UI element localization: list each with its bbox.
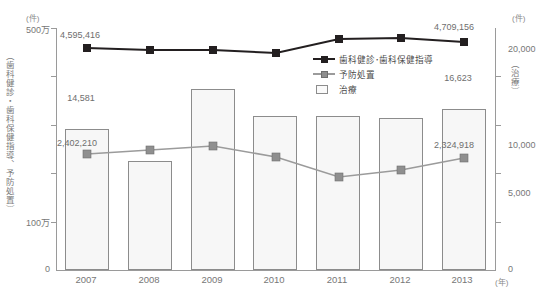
x-label-2012: 2012	[369, 274, 431, 285]
label-prevention-2007: 2,402,210	[57, 138, 97, 148]
marker-prevention-2010	[272, 153, 280, 161]
left-axis-label: （歯科健診・歯科保健指導、予防処置）	[4, 52, 13, 214]
marker-dental-checkup-2012	[397, 34, 405, 42]
right-tick-label-10000: 10,000	[508, 140, 536, 150]
legend-key-treatment-icon	[313, 84, 335, 94]
left-tick-label-1000000: 100万	[6, 216, 50, 229]
legend-label-treatment: 治療	[339, 83, 357, 95]
marker-prevention-2008	[146, 146, 154, 154]
line-prevention	[87, 146, 464, 177]
legend-key-dental-checkup-icon	[313, 54, 335, 64]
label-dental-checkup-2013: 4,709,156	[434, 22, 474, 32]
right-axis-label: （治療）	[509, 60, 518, 96]
chart-container: (件) （歯科健診・歯科保健指導、予防処置） (件) （治療） 500万 100…	[0, 0, 541, 294]
marker-prevention-2009	[209, 142, 217, 150]
legend-item-prevention: 予防処置	[313, 67, 433, 80]
legend-item-treatment: 治療	[313, 82, 433, 95]
x-label-2007: 2007	[55, 274, 117, 285]
legend-label-dental-checkup: 歯科健診･歯科保健指導	[339, 53, 433, 65]
left-axis-unit: (件)	[26, 12, 39, 23]
right-tick-label-5000: 5,000	[508, 188, 531, 198]
marker-dental-checkup-2013	[460, 38, 468, 46]
label-prevention-2013: 2,324,918	[434, 140, 474, 150]
x-label-2013: 2013	[431, 274, 493, 285]
marker-dental-checkup-2010	[272, 49, 280, 57]
right-tick-label-20000: 20,000	[508, 44, 536, 54]
left-tick-label-0: 0	[6, 264, 50, 274]
x-label-2008: 2008	[118, 274, 180, 285]
marker-prevention-2013	[460, 154, 468, 162]
marker-dental-checkup-2008	[146, 46, 154, 54]
marker-prevention-2011	[335, 173, 343, 181]
legend-key-prevention-icon	[313, 69, 335, 79]
right-axis-unit: (件)	[512, 12, 525, 23]
x-label-2011: 2011	[306, 274, 368, 285]
right-tick-label-0: 0	[508, 264, 513, 274]
marker-prevention-2012	[397, 166, 405, 174]
x-label-2010: 2010	[243, 274, 305, 285]
label-treatment-2007: 14,581	[55, 93, 107, 103]
label-treatment-2013: 16,623	[432, 73, 484, 83]
marker-dental-checkup-2007	[83, 44, 91, 52]
marker-dental-checkup-2009	[209, 46, 217, 54]
x-axis-unit: (年)	[495, 276, 508, 287]
legend: 歯科健診･歯科保健指導 予防処置 治療	[313, 52, 433, 97]
marker-prevention-2007	[83, 150, 91, 158]
left-tick-label-5000000: 500万	[6, 23, 50, 36]
marker-dental-checkup-2011	[335, 35, 343, 43]
legend-label-prevention: 予防処置	[339, 68, 375, 80]
label-dental-checkup-2007: 4,595,416	[60, 30, 100, 40]
x-label-2009: 2009	[181, 274, 243, 285]
legend-item-dental-checkup: 歯科健診･歯科保健指導	[313, 52, 433, 65]
